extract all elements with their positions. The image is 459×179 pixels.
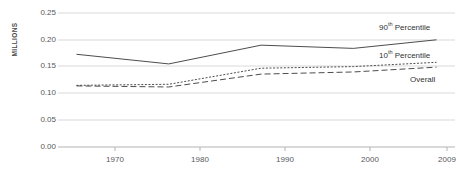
x-tick-label-2009: 2009 (423, 156, 459, 164)
x-tick-label-1990: 1990 (261, 156, 309, 164)
series-label-text: Overall (410, 75, 435, 84)
series-label-text: 10th Percentile (379, 51, 430, 60)
series-label-90th-percentile: 90th Percentile (379, 24, 430, 32)
x-tick-label-1980: 1980 (176, 156, 224, 164)
series-label-10th-percentile: 10th Percentile (379, 52, 430, 60)
x-axis-ticks (115, 147, 447, 151)
series-label-text: 90th Percentile (379, 23, 430, 32)
series-line-overall (76, 67, 436, 87)
x-tick-label-2000: 2000 (346, 156, 394, 164)
series-label-overall: Overall (410, 76, 435, 84)
line-chart: MILLIONS 0.25 0.20 0.15 0.10 0.05 0.00 (0, 0, 459, 179)
gridlines (58, 13, 455, 147)
x-tick-label-1970: 1970 (91, 156, 139, 164)
